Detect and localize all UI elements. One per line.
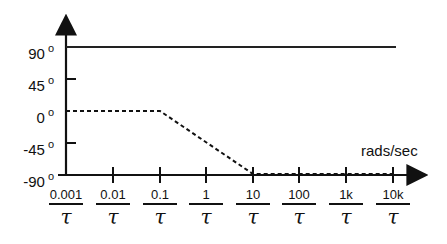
x-label-0.01: 0.01τ [91,187,135,229]
x-label-1: 1τ [184,187,228,229]
y-label-90: 90o [2,40,54,62]
x-label-1k: 1kτ [324,187,368,229]
x-label-100: 100τ [277,187,321,229]
y-label-45: 45o [2,72,54,94]
x-label-10: 10τ [231,187,275,229]
x-label-0.001: 0.001τ [44,187,88,229]
x-label-10k: 10kτ [371,187,415,229]
x-label-0.1: 0.1τ [138,187,182,229]
x-axis-unit-label: rads/sec [361,142,418,159]
y-label-minus45: -45o [2,136,54,158]
dashed-phase-line [66,111,393,174]
y-label-0: 0o [2,104,54,126]
